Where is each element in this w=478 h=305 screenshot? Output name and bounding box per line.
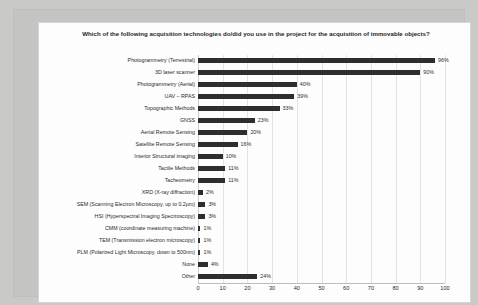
x-tick-label-80: 80 bbox=[386, 285, 406, 291]
bar-row: PLM (Polarized Light Microscopy, down to… bbox=[198, 247, 445, 258]
bar-value-label: 4% bbox=[211, 259, 219, 270]
x-axis-line bbox=[198, 283, 445, 284]
x-tick-label-70: 70 bbox=[361, 285, 381, 291]
bar-row: UAV – RPAS39% bbox=[198, 91, 445, 102]
bar bbox=[198, 274, 257, 279]
bar-row: Topographic Methods33% bbox=[198, 103, 445, 114]
bar-row: CMM (coordinate measuring machine)1% bbox=[198, 223, 445, 234]
category-label: Photogrammetry (Aerial) bbox=[137, 79, 195, 90]
category-label: XRD (X-ray diffraction) bbox=[142, 187, 195, 198]
bar-row: None4% bbox=[198, 259, 445, 270]
category-label: 3D laser scanner bbox=[155, 67, 195, 78]
bar-value-label: 11% bbox=[228, 175, 238, 186]
bar bbox=[198, 166, 225, 171]
bar bbox=[198, 94, 294, 99]
bar bbox=[198, 238, 200, 243]
bar-value-label: 3% bbox=[208, 199, 216, 210]
bar-value-label: 1% bbox=[203, 223, 211, 234]
x-tick-label-50: 50 bbox=[312, 285, 332, 291]
bar-value-label: 2% bbox=[206, 187, 214, 198]
bar bbox=[198, 106, 280, 111]
x-tick-label-60: 60 bbox=[336, 285, 356, 291]
bar bbox=[198, 142, 238, 147]
bar bbox=[198, 214, 205, 219]
bar bbox=[198, 262, 208, 267]
category-label: Photogrammetry (Terrestrial) bbox=[128, 55, 195, 66]
bar-value-label: 96% bbox=[438, 55, 449, 66]
category-label: None bbox=[182, 259, 195, 270]
category-label: PLM (Polarized Light Microscopy, down to… bbox=[77, 247, 195, 258]
bar-value-label: 16% bbox=[241, 139, 252, 150]
category-label: Topographic Methods bbox=[144, 103, 195, 114]
category-label: UAV – RPAS bbox=[165, 91, 195, 102]
bar-row: Tactile Methods11% bbox=[198, 163, 445, 174]
category-label: GNSS bbox=[180, 115, 195, 126]
bar-row: GNSS23% bbox=[198, 115, 445, 126]
bar-row: TEM (Transmission electron microscopy)1% bbox=[198, 235, 445, 246]
bar-value-label: 40% bbox=[300, 79, 311, 90]
category-label: Satellite Remote Sensing bbox=[136, 139, 195, 150]
x-tick-label-0: 0 bbox=[188, 285, 208, 291]
bar-row: XRD (X-ray diffraction)2% bbox=[198, 187, 445, 198]
bar-value-label: 20% bbox=[250, 127, 261, 138]
bar-row: Photogrammetry (Aerial)40% bbox=[198, 79, 445, 90]
document-page-frame: Which of the following acquisition techn… bbox=[13, 9, 465, 297]
bar-row: Interior Structural imaging10% bbox=[198, 151, 445, 162]
bar-value-label: 23% bbox=[258, 115, 269, 126]
category-label: SEM (Scanning Electron Microscopy, up to… bbox=[77, 199, 195, 210]
bar bbox=[198, 154, 223, 159]
x-tick-label-20: 20 bbox=[237, 285, 257, 291]
screenshot-root: Which of the following acquisition techn… bbox=[0, 0, 478, 305]
category-label: CMM (coordinate measuring machine) bbox=[105, 223, 195, 234]
bar bbox=[198, 226, 200, 231]
category-label: HSI (Hyperspectral Imaging Spectroscopy) bbox=[95, 211, 195, 222]
bar-row: Satellite Remote Sensing16% bbox=[198, 139, 445, 150]
plot-area: Photogrammetry (Terrestrial)96%3D laser … bbox=[198, 55, 445, 283]
bar-row: Other24% bbox=[198, 271, 445, 282]
bar-value-label: 11% bbox=[228, 163, 238, 174]
bar-value-label: 3% bbox=[208, 211, 216, 222]
category-label: Tacheometry bbox=[165, 175, 195, 186]
bar bbox=[198, 118, 255, 123]
chart-panel: Which of the following acquisition techn… bbox=[38, 22, 471, 303]
category-label: Aerial Remote Sensing bbox=[141, 127, 195, 138]
x-tick-label-30: 30 bbox=[262, 285, 282, 291]
bar-value-label: 24% bbox=[260, 271, 271, 282]
category-label: Interior Structural imaging bbox=[134, 151, 195, 162]
bar-row: SEM (Scanning Electron Microscopy, up to… bbox=[198, 199, 445, 210]
bar-row: Photogrammetry (Terrestrial)96% bbox=[198, 55, 445, 66]
bar-value-label: 1% bbox=[203, 235, 211, 246]
bar-value-label: 33% bbox=[283, 103, 294, 114]
bar-value-label: 10% bbox=[226, 151, 237, 162]
bar-row: Tacheometry11% bbox=[198, 175, 445, 186]
bar bbox=[198, 250, 200, 255]
bar-value-label: 90% bbox=[423, 67, 434, 78]
category-label: Other bbox=[182, 271, 195, 282]
bar bbox=[198, 58, 435, 63]
bar bbox=[198, 190, 203, 195]
bar bbox=[198, 178, 225, 183]
bar-row: Aerial Remote Sensing20% bbox=[198, 127, 445, 138]
chart-title: Which of the following acquisition techn… bbox=[71, 29, 441, 39]
category-label: TEM (Transmission electron microscopy) bbox=[99, 235, 195, 246]
x-tick-label-40: 40 bbox=[287, 285, 307, 291]
bar-row: HSI (Hyperspectral Imaging Spectroscopy)… bbox=[198, 211, 445, 222]
x-tick-label-90: 90 bbox=[410, 285, 430, 291]
category-label: Tactile Methods bbox=[158, 163, 195, 174]
bar bbox=[198, 202, 205, 207]
x-tick-label-100: 100 bbox=[435, 285, 455, 291]
bar bbox=[198, 70, 420, 75]
bar-value-label: 1% bbox=[203, 247, 211, 258]
bar bbox=[198, 130, 247, 135]
bar bbox=[198, 82, 297, 87]
bar-row: 3D laser scanner90% bbox=[198, 67, 445, 78]
x-tick-label-10: 10 bbox=[213, 285, 233, 291]
gridline-100 bbox=[445, 55, 446, 283]
bar-value-label: 39% bbox=[297, 91, 308, 102]
